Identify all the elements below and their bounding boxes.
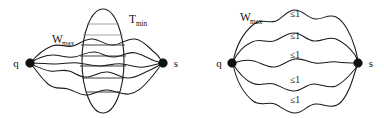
right-node-q-label: q [216,57,222,69]
figure-root: q s W max T min [0,0,384,118]
left-path-5 [31,64,162,95]
left-tmin-sub: min [136,20,148,28]
edge-capacity-label-2: ≤1 [290,31,300,41]
right-node-q-dot [228,59,237,68]
right-wmax-sub: max [250,18,263,26]
min-cut-ellipse [82,9,124,113]
left-wmax-sub: max [62,40,75,48]
right-node-s-dot [354,59,363,68]
left-path-1 [31,39,162,63]
left-tmin-base: T [129,13,136,25]
min-cut-chords [80,24,126,92]
right-path-3 [233,59,358,67]
edge-capacity-label-3: ≤1 [290,50,300,60]
edge-capacity-label-1: ≤1 [290,9,300,19]
edge-capacity-label-4: ≤1 [290,75,300,85]
left-flow-paths [31,39,162,95]
left-node-q-dot [26,59,35,68]
left-node-s-dot [159,59,168,68]
left-path-3 [31,63,162,67]
right-wmax-label: W max [240,11,263,26]
right-panel-unit-capacity: q s W max ≤1 ≤1 ≤1 ≤1 ≤1 [216,9,373,113]
left-node-q-label: q [13,57,19,69]
left-panel-min-cut: q s W max T min [13,9,178,113]
left-path-2 [31,52,162,63]
edge-capacity-label-5: ≤1 [290,95,300,105]
left-node-s-label: s [174,57,178,69]
right-node-s-label: s [369,57,373,69]
left-tmin-label: T min [129,13,148,28]
right-path-5 [233,64,358,113]
diagram-canvas: q s W max T min [0,0,384,118]
